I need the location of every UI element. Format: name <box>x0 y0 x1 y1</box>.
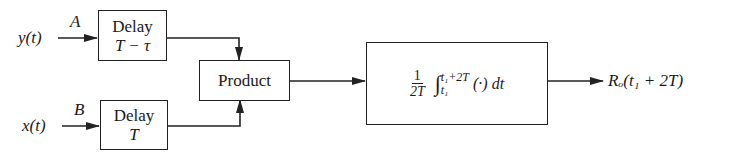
output-label: Rₒ(t₁ + 2T) <box>608 71 683 91</box>
arrow-delay2-to-product <box>168 100 240 126</box>
integral-limits: t₁+2T t₁ <box>441 71 469 97</box>
upper-limit: t₁+2T <box>441 71 469 84</box>
delay2-title: Delay <box>114 106 155 125</box>
delay-block-1: Delay T − τ <box>98 10 167 61</box>
input-x-label: x(t) <box>22 116 46 136</box>
delay-block-2: Delay T <box>100 100 168 150</box>
fraction-denominator: 2T <box>410 84 425 99</box>
product-title: Product <box>218 71 271 90</box>
delay1-title: Delay <box>112 17 153 36</box>
integrator-block: 1 2T ∫ t₁+2T t₁ (·) dt <box>366 42 548 125</box>
lower-limit: t₁ <box>441 84 469 97</box>
node-b-label: B <box>74 100 84 120</box>
node-a-label: A <box>70 12 80 32</box>
fraction-numerator: 1 <box>412 68 423 84</box>
arrow-delay1-to-product <box>167 38 239 60</box>
delay1-param: T − τ <box>115 36 150 55</box>
delay2-param: T <box>129 125 138 144</box>
input-y-label: y(t) <box>18 28 42 48</box>
product-block: Product <box>199 60 290 101</box>
integrand: (·) dt <box>473 74 504 93</box>
fraction: 1 2T <box>410 68 425 99</box>
